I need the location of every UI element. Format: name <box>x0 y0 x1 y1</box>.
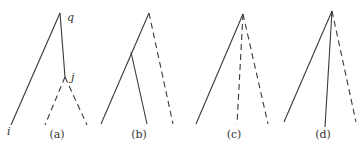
dashed-edge <box>149 13 173 124</box>
solid-edge <box>325 11 332 127</box>
tree-diagram: qji(a) (b) (c) (d) <box>0 0 364 151</box>
solid-edge <box>284 11 332 122</box>
node-label-q: q <box>67 11 74 24</box>
panel-caption-a: (a) <box>49 128 64 141</box>
panel-b: (b) <box>101 13 173 141</box>
panel-caption-c: (c) <box>227 128 242 141</box>
panel-c: (c) <box>196 14 268 141</box>
solid-edge <box>60 13 65 77</box>
solid-edge <box>101 13 149 124</box>
dashed-edge <box>45 77 65 125</box>
panel-a: qji(a) <box>7 11 87 141</box>
node-label-i: i <box>7 125 11 138</box>
panel-caption-d: (d) <box>315 128 331 141</box>
panel-caption-b: (b) <box>131 128 147 141</box>
solid-edge <box>196 14 243 124</box>
node-label-j: j <box>68 71 75 84</box>
dashed-edge <box>243 14 268 124</box>
dashed-edge <box>237 14 243 124</box>
solid-edge <box>131 52 147 124</box>
solid-edge <box>11 13 60 125</box>
dashed-edge <box>65 77 87 125</box>
dashed-edge <box>332 11 356 122</box>
panel-d: (d) <box>284 11 356 141</box>
